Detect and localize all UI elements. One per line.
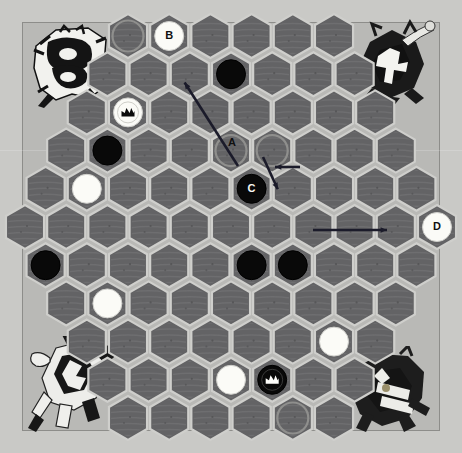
- piece-white[interactable]: D: [423, 213, 452, 242]
- piece-black[interactable]: [237, 251, 266, 280]
- hex-cell[interactable]: [190, 90, 230, 134]
- hex-cell[interactable]: [273, 320, 313, 364]
- hex-cell[interactable]: [335, 281, 375, 325]
- hex-cell[interactable]: [355, 167, 395, 211]
- hex-cell[interactable]: [87, 358, 127, 402]
- hex-cell[interactable]: [335, 52, 375, 96]
- hex-cell[interactable]: [314, 243, 354, 287]
- hex-cell[interactable]: [273, 396, 313, 440]
- hex-cell[interactable]: [273, 167, 313, 211]
- hex-cell[interactable]: [232, 14, 272, 58]
- hex-cell[interactable]: [396, 167, 436, 211]
- hex-cell[interactable]: [211, 205, 251, 249]
- piece-white[interactable]: [320, 327, 349, 356]
- hex-cell[interactable]: [149, 396, 189, 440]
- hex-cell[interactable]: [170, 205, 210, 249]
- hex-cell[interactable]: [293, 52, 333, 96]
- hex-cell[interactable]: [149, 320, 189, 364]
- hex-cell[interactable]: [108, 396, 148, 440]
- hex-cell[interactable]: [67, 90, 107, 134]
- hex-cell[interactable]: [335, 205, 375, 249]
- piece-label-D: D: [433, 220, 441, 232]
- hex-cell[interactable]: [67, 243, 107, 287]
- hex-cell[interactable]: [149, 243, 189, 287]
- hex-cell[interactable]: [108, 320, 148, 364]
- hex-cell[interactable]: [314, 167, 354, 211]
- hex-cell[interactable]: [170, 281, 210, 325]
- piece-label-C: C: [248, 182, 256, 194]
- hex-board[interactable]: BCD A: [0, 0, 462, 453]
- hex-cell[interactable]: [335, 358, 375, 402]
- hex-cell[interactable]: [252, 205, 292, 249]
- hex-cell[interactable]: [396, 243, 436, 287]
- hex-cell[interactable]: [108, 243, 148, 287]
- hex-cell[interactable]: [335, 129, 375, 173]
- hex-cell[interactable]: [314, 396, 354, 440]
- hex-cell[interactable]: [273, 90, 313, 134]
- hex-cell[interactable]: [232, 320, 272, 364]
- hex-cell[interactable]: [293, 358, 333, 402]
- hex-cell[interactable]: [211, 281, 251, 325]
- piece-black[interactable]: C: [237, 174, 266, 203]
- hex-cell[interactable]: [129, 205, 169, 249]
- hex-cell[interactable]: [376, 281, 416, 325]
- hex-cell[interactable]: [355, 243, 395, 287]
- piece-white[interactable]: [217, 365, 246, 394]
- hex-cell[interactable]: [46, 281, 86, 325]
- hex-cell[interactable]: [273, 14, 313, 58]
- hex-cell[interactable]: [190, 243, 230, 287]
- annotation-labels: A: [228, 136, 236, 148]
- hex-cell[interactable]: [129, 281, 169, 325]
- hex-cell[interactable]: [232, 396, 272, 440]
- hex-cell[interactable]: [129, 52, 169, 96]
- hex-cell[interactable]: [232, 90, 272, 134]
- hex-cell[interactable]: [314, 14, 354, 58]
- hex-cell[interactable]: [293, 205, 333, 249]
- hex-cell[interactable]: [355, 320, 395, 364]
- hex-cell[interactable]: [190, 14, 230, 58]
- hex-cell[interactable]: [376, 129, 416, 173]
- hex-cell[interactable]: [190, 167, 230, 211]
- hex-cell[interactable]: [376, 205, 416, 249]
- hex-cell[interactable]: [293, 281, 333, 325]
- hex-cell[interactable]: [108, 14, 148, 58]
- hex-cell[interactable]: [129, 358, 169, 402]
- hex-cell[interactable]: [190, 396, 230, 440]
- hex-cell[interactable]: [46, 205, 86, 249]
- piece-label-B: B: [165, 29, 173, 41]
- hex-cell[interactable]: [87, 52, 127, 96]
- hex-cell[interactable]: [314, 90, 354, 134]
- piece-black[interactable]: [31, 251, 60, 280]
- piece-white[interactable]: B: [155, 22, 184, 51]
- hex-cell[interactable]: [355, 90, 395, 134]
- piece-white-king[interactable]: [114, 98, 143, 127]
- screenshot-root: BCD A: [0, 0, 462, 453]
- piece-black[interactable]: [217, 60, 246, 89]
- hex-cell[interactable]: [149, 167, 189, 211]
- piece-black[interactable]: [93, 136, 122, 165]
- hex-cell[interactable]: [129, 129, 169, 173]
- hex-cell[interactable]: [67, 320, 107, 364]
- hex-cell[interactable]: [170, 129, 210, 173]
- piece-white[interactable]: [72, 174, 101, 203]
- hex-cell[interactable]: [190, 320, 230, 364]
- hex-cell[interactable]: [5, 205, 45, 249]
- annotation-label-A: A: [228, 136, 236, 148]
- hex-cell[interactable]: [26, 167, 66, 211]
- hex-cell[interactable]: [170, 358, 210, 402]
- piece-white[interactable]: [93, 289, 122, 318]
- hex-cell[interactable]: [252, 281, 292, 325]
- hex-cell[interactable]: [46, 129, 86, 173]
- piece-black-king[interactable]: [258, 365, 287, 394]
- piece-black[interactable]: [278, 251, 307, 280]
- hex-cell[interactable]: [87, 205, 127, 249]
- hex-cell[interactable]: [108, 167, 148, 211]
- hex-cell[interactable]: [149, 90, 189, 134]
- hex-cell[interactable]: [252, 52, 292, 96]
